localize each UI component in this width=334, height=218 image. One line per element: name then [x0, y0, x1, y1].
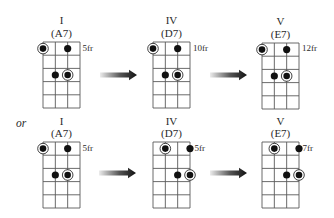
circled-dot-icon	[62, 70, 73, 81]
circled-dot-icon	[62, 170, 73, 181]
circled-dot-icon	[269, 143, 280, 154]
circled-dot-icon	[160, 143, 171, 154]
chord-diagram-row1-v: V (E7) 12fr	[257, 15, 317, 109]
chord-name: (E7)	[271, 127, 291, 140]
right-arrow-icon	[210, 70, 247, 80]
filled-dot-icon	[174, 171, 181, 178]
circled-dot-icon	[294, 170, 305, 181]
fret-position-label: 12fr	[302, 43, 317, 53]
filled-dot-icon	[52, 71, 59, 78]
filled-dot-icon	[283, 171, 290, 178]
filled-dot-icon	[295, 145, 302, 152]
filled-dot-icon	[186, 145, 193, 152]
chord-name: (A7)	[51, 27, 72, 40]
chord-diagram-row2-i: I (A7) 5fr	[38, 115, 93, 208]
chord-name: (A7)	[51, 127, 72, 140]
circled-dot-icon	[281, 71, 292, 82]
filled-dot-icon	[174, 45, 181, 52]
degree-label: V	[277, 115, 285, 127]
fret-position-label: 5fr	[195, 143, 206, 153]
filled-dot-icon	[64, 45, 71, 52]
degree-label: V	[277, 15, 285, 27]
chord-progression-diagram: or I (A7) 5fr IV (D7) 10fr V (E7) 12fr I…	[0, 0, 334, 218]
fretboard-grid	[153, 42, 190, 108]
filled-dot-icon	[52, 171, 59, 178]
fretboard-grid	[43, 42, 80, 108]
chord-diagram-row1-i: I (A7) 5fr	[38, 14, 93, 108]
filled-dot-icon	[283, 46, 290, 53]
chord-name: (D7)	[161, 127, 182, 140]
circled-dot-icon	[38, 43, 49, 54]
circled-dot-icon	[38, 143, 49, 154]
degree-label: IV	[166, 115, 178, 127]
filled-dot-icon	[271, 72, 278, 79]
chord-diagram-row1-iv: IV (D7) 10fr	[148, 14, 208, 108]
chord-name: (D7)	[161, 27, 182, 40]
chord-diagram-row2-v: V (E7) 7fr	[262, 115, 313, 208]
right-arrow-icon	[210, 168, 247, 178]
alternative-label: or	[16, 117, 27, 129]
chord-diagram-row2-iv: IV (D7) 5fr	[153, 115, 205, 208]
fretboard-grid	[262, 43, 299, 109]
right-arrow-icon	[99, 168, 136, 178]
fret-position-label: 5fr	[83, 43, 94, 53]
fret-position-label: 10fr	[193, 43, 208, 53]
filled-dot-icon	[162, 71, 169, 78]
circled-dot-icon	[148, 43, 159, 54]
degree-label: IV	[166, 14, 178, 26]
right-arrow-icon	[100, 70, 137, 80]
degree-label: I	[60, 14, 64, 26]
fretboard-grid	[43, 142, 80, 208]
circled-dot-icon	[257, 44, 268, 55]
chord-name: (E7)	[271, 28, 291, 41]
fret-position-label: 5fr	[83, 143, 94, 153]
degree-label: I	[60, 115, 64, 127]
filled-dot-icon	[64, 145, 71, 152]
circled-dot-icon	[172, 70, 183, 81]
fret-position-label: 7fr	[303, 143, 314, 153]
circled-dot-icon	[185, 170, 196, 181]
